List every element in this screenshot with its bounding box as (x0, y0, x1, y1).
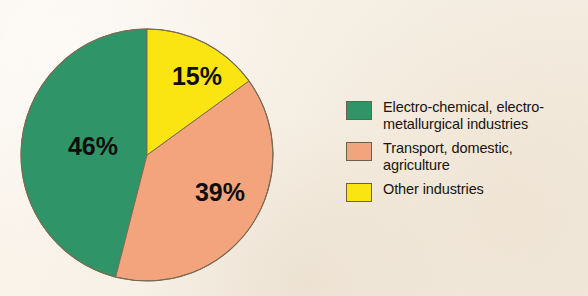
legend-item-other-industries[interactable]: Other industries (346, 181, 578, 202)
chart-legend: Electro-chemical, electro- metallurgical… (346, 99, 578, 202)
legend-item-transport-domestic-agriculture[interactable]: Transport, domestic, agriculture (346, 140, 578, 174)
legend-label-other-industries: Other industries (383, 181, 484, 198)
pie-chart-svg: 46% 39% 15% (20, 28, 274, 282)
pie-chart-area: 46% 39% 15% (20, 28, 274, 282)
legend-item-electro-chemical[interactable]: Electro-chemical, electro- metallurgical… (346, 99, 578, 133)
legend-label-transport-domestic-agriculture: Transport, domestic, agriculture (383, 140, 513, 174)
legend-swatch-yellow-icon (346, 183, 372, 202)
legend-swatch-salmon-icon (346, 142, 372, 161)
pie-chart-figure: 46% 39% 15% Electro-chemical, electro- m… (0, 0, 588, 296)
legend-swatch-green-icon (346, 101, 372, 120)
legend-label-electro-chemical: Electro-chemical, electro- metallurgical… (383, 99, 544, 133)
pie-label-46-percent: 46% (68, 132, 118, 160)
pie-label-15-percent: 15% (172, 62, 222, 90)
pie-label-39-percent: 39% (195, 178, 245, 206)
